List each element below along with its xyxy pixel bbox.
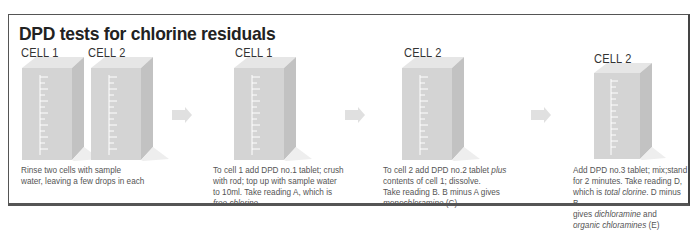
diagram-frame: DPD tests for chlorine residuals CELL 1 … (8, 14, 690, 206)
step-2-caption: To cell 1 add DPD no.1 tablet; crush wit… (213, 165, 344, 209)
beaker-cell-icon (234, 55, 314, 163)
step-3-caption: To cell 2 add DPD no.2 tablet plus conte… (383, 165, 506, 209)
arrow-right-icon (172, 107, 194, 123)
arrow-right-icon (531, 107, 553, 123)
arrow-right-icon (345, 107, 367, 123)
diagram-title: DPD tests for chlorine residuals (19, 23, 275, 45)
beaker-cell-icon (402, 55, 482, 163)
beaker-cell-icon (91, 55, 171, 163)
step-1-caption: Rinse two cells with sample water, leavi… (21, 165, 144, 187)
beaker-cell-icon (594, 61, 674, 163)
step-4-caption: Add DPD no.3 tablet; mix;stand for 2 min… (573, 165, 688, 231)
beaker-cell-icon (22, 55, 102, 163)
